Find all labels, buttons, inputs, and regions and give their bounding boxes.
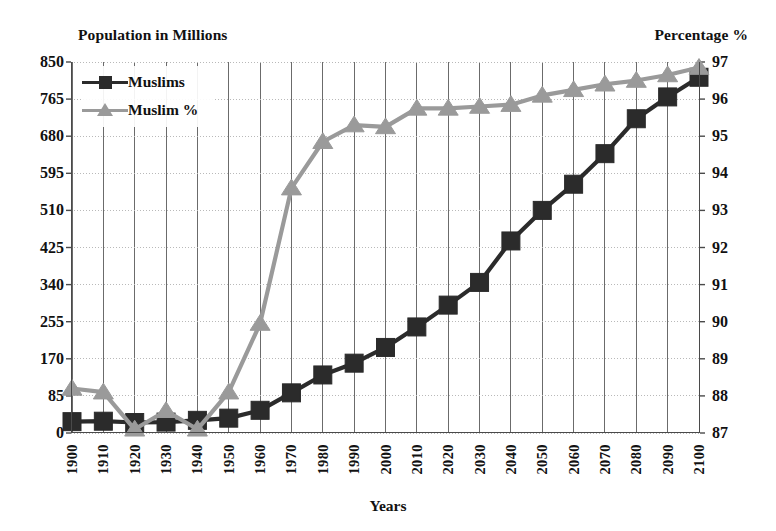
secondary-y-axis-tick-label: 95 (712, 128, 728, 144)
secondary-y-axis-tick-label: 92 (712, 240, 728, 256)
y-axis-tick-label: 255 (40, 314, 64, 330)
y-axis-tick-label: 170 (40, 351, 64, 367)
legend-item-label: Muslim % (128, 101, 198, 119)
chart-legend: MuslimsMuslim % (82, 66, 214, 127)
x-axis-tick-label: 2060 (567, 444, 582, 475)
left-axis-title: Population in Millions (78, 26, 228, 44)
x-axis-tick-label: 2100 (692, 444, 707, 475)
legend-triangle-marker-icon (82, 102, 128, 118)
y-axis-tick-label: 425 (40, 240, 64, 256)
x-axis-tick-label: 2030 (473, 444, 488, 475)
x-axis-tick-label: 2020 (441, 444, 456, 475)
chart-container: Population in Millions Percentage % Year… (0, 0, 776, 531)
x-axis-tick-label: 2080 (629, 444, 644, 475)
x-axis-tick-label: 1960 (253, 444, 268, 475)
x-axis-tick-label: 1970 (284, 444, 299, 475)
x-axis-tick-label: 1950 (222, 444, 237, 475)
y-axis-tick-label: 85 (48, 388, 64, 404)
x-axis-tick-label: 1920 (128, 444, 143, 475)
secondary-y-axis-tick-label: 96 (712, 91, 728, 107)
legend-item[interactable]: Muslim % (82, 96, 214, 124)
y-axis-tick-label: 510 (40, 202, 64, 218)
secondary-y-axis-tick-label: 97 (712, 54, 728, 70)
legend-item[interactable]: Muslims (82, 68, 214, 96)
x-axis-tick-label: 1980 (316, 444, 331, 475)
secondary-y-axis-tick-label: 90 (712, 314, 728, 330)
x-axis-tick-label: 2070 (598, 444, 613, 475)
x-axis-tick-label: 1910 (96, 444, 111, 475)
x-axis-tick-label: 1900 (65, 444, 80, 475)
right-axis-title: Percentage % (655, 26, 748, 44)
secondary-y-axis-tick-label: 93 (712, 202, 728, 218)
y-axis-tick-label: 595 (40, 165, 64, 181)
x-axis-tick-label: 2010 (410, 444, 425, 475)
x-axis-title: Years (0, 497, 776, 515)
legend-square-marker-icon (82, 74, 128, 90)
x-axis-tick-label: 2090 (661, 444, 676, 475)
y-axis-tick-label: 850 (40, 54, 64, 70)
x-axis-tick-label: 2040 (504, 444, 519, 475)
secondary-y-axis-tick-label: 87 (712, 425, 728, 441)
y-axis-tick-label: 340 (40, 277, 64, 293)
x-axis-tick-label: 2000 (379, 444, 394, 475)
secondary-y-axis-tick-label: 88 (712, 388, 728, 404)
y-axis-tick-label: 680 (40, 128, 64, 144)
x-axis-tick-label: 1930 (159, 444, 174, 475)
secondary-y-axis-tick-label: 89 (712, 351, 728, 367)
legend-item-label: Muslims (128, 73, 185, 91)
x-axis-tick-label: 2050 (535, 444, 550, 475)
y-axis-tick-label: 765 (40, 91, 64, 107)
secondary-y-axis-tick-label: 94 (712, 165, 728, 181)
secondary-y-axis-tick-label: 91 (712, 277, 728, 293)
x-axis-tick-label: 1940 (190, 444, 205, 475)
x-axis-tick-label: 1990 (347, 444, 362, 475)
